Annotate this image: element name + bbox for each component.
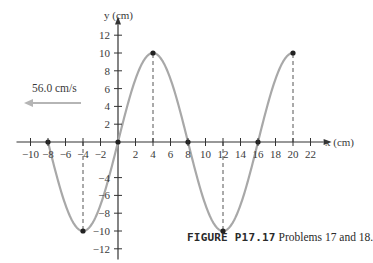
svg-text:6: 6 [168, 148, 174, 160]
svg-text:−6: −6 [98, 189, 110, 201]
svg-text:−2: −2 [95, 148, 107, 160]
svg-text:14: 14 [235, 148, 247, 160]
velocity-arrow-icon [24, 99, 81, 107]
svg-text:10: 10 [200, 148, 212, 160]
velocity-label: 56.0 cm/s [32, 82, 77, 94]
svg-text:10: 10 [99, 47, 111, 59]
axes [17, 17, 332, 260]
svg-text:12: 12 [218, 148, 229, 160]
svg-text:−8: −8 [42, 148, 54, 160]
svg-text:2: 2 [105, 118, 111, 130]
svg-text:−6: −6 [60, 148, 72, 160]
svg-text:−10: −10 [93, 225, 111, 237]
svg-text:−4: −4 [77, 148, 89, 160]
svg-text:4: 4 [150, 148, 156, 160]
svg-text:2: 2 [133, 148, 139, 160]
svg-text:16: 16 [253, 148, 265, 160]
svg-text:4: 4 [105, 100, 111, 112]
caption-label: FIGURE P17.17 [187, 231, 276, 244]
svg-text:−10: −10 [22, 148, 40, 160]
svg-text:−12: −12 [93, 243, 110, 255]
svg-text:22: 22 [305, 148, 316, 160]
caption-text: Problems 17 and 18. [279, 231, 373, 243]
svg-text:18: 18 [270, 148, 282, 160]
figure-caption: FIGURE P17.17 Problems 17 and 18. [187, 231, 373, 244]
svg-text:8: 8 [185, 148, 191, 160]
x-axis-label: x (cm) [325, 136, 354, 149]
svg-text:−8: −8 [98, 207, 110, 219]
svg-text:20: 20 [288, 148, 300, 160]
svg-text:−4: −4 [98, 172, 110, 184]
svg-text:12: 12 [99, 29, 110, 41]
svg-text:6: 6 [105, 83, 111, 95]
y-axis-label: y (cm) [104, 9, 133, 22]
svg-text:8: 8 [105, 65, 111, 77]
